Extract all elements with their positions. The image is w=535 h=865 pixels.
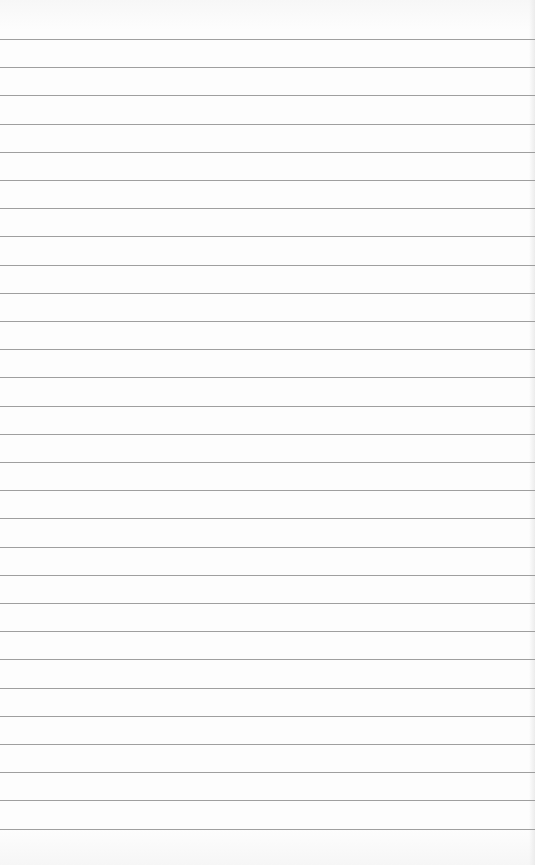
ruled-line — [0, 265, 535, 266]
ruled-line — [0, 180, 535, 181]
ruled-line — [0, 603, 535, 604]
paper-edge-shadow — [529, 0, 535, 865]
ruled-line — [0, 716, 535, 717]
ruled-line — [0, 208, 535, 209]
lined-paper-sheet — [0, 0, 535, 865]
ruled-line — [0, 744, 535, 745]
ruled-line — [0, 95, 535, 96]
ruled-line — [0, 236, 535, 237]
ruled-line — [0, 829, 535, 830]
ruled-line — [0, 293, 535, 294]
ruled-line — [0, 547, 535, 548]
ruled-line — [0, 377, 535, 378]
ruled-line — [0, 321, 535, 322]
ruled-line — [0, 688, 535, 689]
ruled-line — [0, 490, 535, 491]
ruled-line — [0, 659, 535, 660]
ruled-line — [0, 124, 535, 125]
ruled-line — [0, 462, 535, 463]
ruled-line — [0, 800, 535, 801]
ruled-line — [0, 772, 535, 773]
ruled-line — [0, 152, 535, 153]
ruled-line — [0, 575, 535, 576]
ruled-line — [0, 39, 535, 40]
ruled-line — [0, 406, 535, 407]
ruled-line — [0, 631, 535, 632]
ruled-line — [0, 518, 535, 519]
ruled-line — [0, 434, 535, 435]
ruled-line — [0, 349, 535, 350]
ruled-line — [0, 67, 535, 68]
